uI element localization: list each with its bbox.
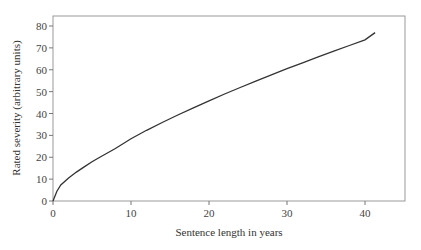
x-tick-label: 20 xyxy=(204,207,216,219)
y-tick-label: 50 xyxy=(36,86,48,98)
y-axis: 01020304050607080 xyxy=(36,20,53,207)
x-tick-label: 40 xyxy=(360,207,372,219)
y-tick-label: 0 xyxy=(42,195,48,207)
y-tick-label: 10 xyxy=(36,173,48,185)
x-tick-label: 10 xyxy=(126,207,138,219)
y-tick-label: 80 xyxy=(36,20,48,32)
chart: 01020304050607080 010203040 Sentence len… xyxy=(0,0,421,250)
x-axis-label: Sentence length in years xyxy=(175,226,282,238)
y-tick-label: 40 xyxy=(36,108,48,120)
y-tick-label: 60 xyxy=(36,64,48,76)
y-tick-label: 20 xyxy=(36,151,48,163)
x-tick-label: 0 xyxy=(50,207,56,219)
data-line xyxy=(53,33,375,201)
y-axis-label: Rated severity (arbitrary units) xyxy=(10,40,23,176)
y-tick-label: 70 xyxy=(36,42,48,54)
x-axis: 010203040 xyxy=(50,201,371,219)
x-tick-label: 30 xyxy=(282,207,294,219)
y-tick-label: 30 xyxy=(36,129,48,141)
plot-frame xyxy=(53,16,405,201)
